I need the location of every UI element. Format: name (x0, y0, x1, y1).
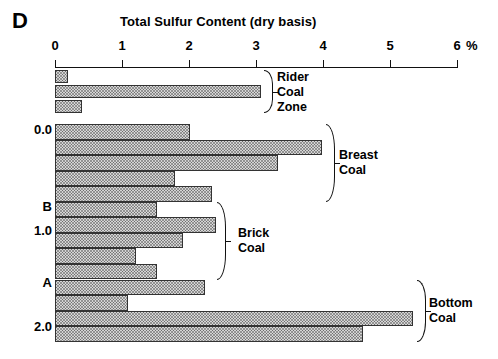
bar (55, 85, 261, 98)
bar (55, 311, 413, 327)
x-tick-label: 6 (453, 38, 460, 53)
group-label: RiderCoalZone (277, 69, 309, 114)
x-axis-unit: % (466, 38, 478, 53)
group-label: BottomCoal (429, 296, 473, 326)
x-tick-mark (390, 60, 391, 68)
group-label-line: Coal (277, 84, 309, 99)
bar (55, 100, 82, 113)
bar (55, 264, 157, 280)
bar (55, 70, 68, 83)
group-label-line: Rider (277, 69, 309, 84)
group-label-line: Zone (277, 99, 309, 114)
group-bracket-nub (225, 241, 231, 242)
y-tick-label: 1.0 (34, 222, 52, 237)
x-tick-label: 3 (252, 38, 259, 53)
bar (55, 171, 175, 187)
bar (55, 326, 363, 342)
y-tick-label: 0.0 (34, 122, 52, 137)
y-tick-label: 2.0 (34, 319, 52, 334)
bar (55, 280, 205, 296)
x-tick-label: 1 (118, 38, 125, 53)
x-tick-mark (323, 60, 324, 68)
x-tick-label: 2 (185, 38, 192, 53)
bar (55, 217, 216, 233)
bar (55, 124, 190, 140)
sulfur-content-chart: D Total Sulfur Content (dry basis) % 012… (0, 0, 498, 359)
x-tick-mark (457, 60, 458, 68)
bar (55, 155, 278, 171)
bar (55, 233, 183, 249)
group-label-line: Coal (339, 163, 378, 178)
bar (55, 186, 212, 202)
group-label-line: Coal (238, 241, 269, 256)
group-label-line: Bottom (429, 296, 473, 311)
bar (55, 295, 128, 311)
panel-letter: D (12, 10, 28, 32)
group-label: BrickCoal (238, 226, 269, 256)
x-tick-label: 5 (386, 38, 393, 53)
x-tick-label: 0 (51, 38, 58, 53)
y-tick-label: B (43, 199, 52, 214)
x-tick-mark (256, 60, 257, 68)
chart-title: Total Sulfur Content (dry basis) (120, 14, 317, 29)
x-tick-mark (55, 60, 56, 68)
group-label-line: Brick (238, 226, 269, 241)
bar (55, 202, 157, 218)
x-axis-line (55, 67, 457, 68)
x-tick-mark (122, 60, 123, 68)
y-tick-label: A (43, 274, 52, 289)
bar (55, 140, 322, 156)
x-tick-label: 4 (319, 38, 326, 53)
bar (55, 248, 136, 264)
group-label: BreastCoal (339, 148, 378, 178)
x-tick-mark (189, 60, 190, 68)
group-label-line: Breast (339, 148, 378, 163)
group-label-line: Coal (429, 311, 473, 326)
